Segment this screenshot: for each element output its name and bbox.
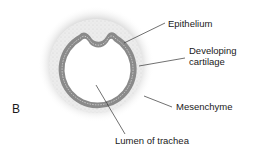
trachea-cross-section-diagram: B Epithelium Developing cartilage Mesenc… (0, 0, 254, 157)
label-cartilage: cartilage (189, 57, 225, 67)
label-lumen: Lumen of trachea (115, 136, 189, 146)
label-developing: Developing (189, 46, 237, 56)
panel-letter: B (12, 102, 20, 116)
label-epithelium: Epithelium (168, 19, 212, 29)
lumen-region (65, 39, 131, 103)
diagram-graphic (0, 0, 254, 157)
label-mesenchyme: Mesenchyme (176, 102, 233, 112)
mesenchyme-leader-line (144, 96, 172, 107)
